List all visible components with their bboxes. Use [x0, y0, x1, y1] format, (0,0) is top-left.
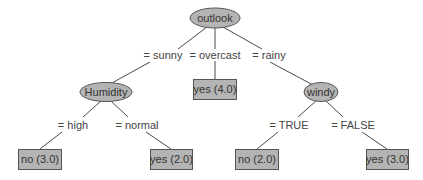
leaf-windy-true: no (2.0) — [236, 150, 279, 170]
leaf-humidity-normal: yes (2.0) — [150, 150, 193, 170]
edge-label-false: = FALSE — [331, 119, 375, 131]
edge-windy-true-upper — [298, 101, 316, 117]
leaf-humidity-high-label: no (3.0) — [21, 153, 59, 165]
node-outlook: outlook — [190, 8, 240, 28]
edge-humidity-high-upper — [83, 101, 101, 117]
edge-outlook-rainy-upper — [223, 27, 262, 49]
leaf-humidity-normal-label: yes (2.0) — [150, 153, 193, 165]
edge-humidity-normal-upper — [111, 101, 128, 117]
edge-label-overcast: = overcast — [189, 49, 240, 61]
edge-humidity-high-lower — [40, 132, 62, 149]
node-humidity: Humidity — [80, 83, 132, 102]
node-windy: windy — [304, 83, 338, 102]
edge-label-true: = TRUE — [269, 119, 308, 131]
node-outlook-label: outlook — [197, 12, 233, 24]
leaf-humidity-high: no (3.0) — [19, 150, 62, 170]
edge-windy-true-lower — [257, 132, 278, 149]
edge-label-normal: = normal — [115, 119, 158, 131]
leaf-overcast-label: yes (4.0) — [194, 83, 237, 95]
edge-outlook-sunny-upper — [178, 27, 207, 49]
leaf-windy-true-label: no (2.0) — [238, 153, 276, 165]
edge-label-sunny: = sunny — [144, 49, 183, 61]
decision-tree: outlook = sunny = overcast = rainy yes (… — [0, 0, 423, 180]
edge-outlook-sunny-lower — [110, 62, 150, 84]
edge-label-high: = high — [58, 119, 88, 131]
edge-windy-false-upper — [326, 101, 343, 117]
node-humidity-label: Humidity — [85, 86, 128, 98]
edge-outlook-rainy-lower — [270, 62, 313, 85]
edge-label-rainy: = rainy — [252, 49, 286, 61]
node-windy-label: windy — [306, 86, 336, 98]
leaf-overcast: yes (4.0) — [194, 80, 237, 100]
edge-windy-false-lower — [362, 132, 387, 149]
edge-humidity-normal-lower — [146, 132, 171, 149]
leaf-windy-false-label: yes (3.0) — [366, 153, 409, 165]
leaf-windy-false: yes (3.0) — [366, 150, 409, 170]
